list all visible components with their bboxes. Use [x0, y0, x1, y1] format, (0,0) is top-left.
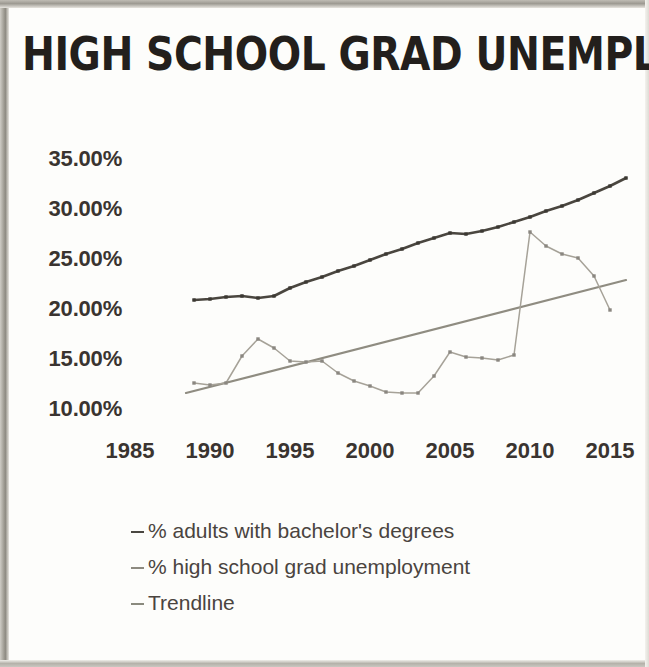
data-point-marker [496, 225, 499, 228]
data-point-marker [368, 384, 371, 387]
data-point-marker [352, 379, 355, 382]
chart-legend: % adults with bachelor's degrees% high s… [130, 513, 470, 621]
data-point-marker [272, 346, 275, 349]
data-point-marker [336, 371, 339, 374]
y-axis-tick-35: 35.00% [12, 146, 122, 172]
data-point-marker [464, 232, 467, 235]
data-point-marker [384, 252, 387, 255]
x-axis-tick-1990: 1990 [170, 438, 250, 464]
data-point-marker [288, 359, 291, 362]
series--adults-with-bachelor-s-degrees [192, 176, 627, 301]
data-point-marker [608, 184, 611, 187]
data-point-marker [208, 383, 211, 386]
x-axis-tick-2010: 2010 [490, 438, 570, 464]
data-point-marker [224, 381, 227, 384]
legend-item-label: Trendline [148, 591, 235, 615]
data-point-marker [336, 269, 339, 272]
y-axis-tick-10: 10.00% [12, 396, 122, 422]
dash-marker [130, 596, 146, 610]
chart-page: HIGH SCHOOL GRAD UNEMPLOYMENT 35.00%30.0… [0, 0, 649, 667]
x-axis-tick-2005: 2005 [410, 438, 490, 464]
data-point-marker [544, 209, 547, 212]
dash-marker [130, 560, 146, 574]
data-point-marker [448, 231, 451, 234]
y-axis-tick-30: 30.00% [12, 196, 122, 222]
x-axis-tick-1985: 1985 [90, 438, 170, 464]
y-axis-tick-25: 25.00% [12, 246, 122, 272]
y-axis-tick-15: 15.00% [12, 346, 122, 372]
data-point-marker [432, 374, 435, 377]
data-point-marker [528, 230, 531, 233]
data-point-marker [288, 286, 291, 289]
series--high-school-grad-unemployment [192, 230, 611, 394]
data-point-marker [304, 280, 307, 283]
data-point-marker [560, 252, 563, 255]
data-point-marker [320, 359, 323, 362]
data-point-marker [432, 236, 435, 239]
data-point-marker [608, 308, 611, 311]
data-point-marker [320, 275, 323, 278]
data-point-marker [416, 241, 419, 244]
data-point-marker [416, 391, 419, 394]
x-axis-tick-2000: 2000 [330, 438, 410, 464]
x-axis-tick-1995: 1995 [250, 438, 330, 464]
legend-item-1[interactable]: % high school grad unemployment [130, 549, 470, 585]
data-point-marker [512, 353, 515, 356]
legend-item-0[interactable]: % adults with bachelor's degrees [130, 513, 470, 549]
dash-marker [130, 524, 146, 538]
legend-item-2[interactable]: Trendline [130, 585, 470, 621]
data-point-marker [192, 298, 195, 301]
data-point-marker [240, 354, 243, 357]
data-point-marker [368, 258, 371, 261]
data-point-marker [480, 356, 483, 359]
legend-item-label: % adults with bachelor's degrees [148, 519, 454, 543]
data-point-marker [592, 191, 595, 194]
data-point-marker [240, 294, 243, 297]
data-point-marker [576, 198, 579, 201]
data-point-marker [208, 297, 211, 300]
data-point-marker [400, 391, 403, 394]
data-point-marker [464, 355, 467, 358]
data-point-marker [576, 256, 579, 259]
y-axis-tick-20: 20.00% [12, 296, 122, 322]
data-point-marker [528, 215, 531, 218]
data-point-marker [512, 220, 515, 223]
data-point-marker [480, 229, 483, 232]
data-point-marker [400, 247, 403, 250]
data-point-marker [448, 350, 451, 353]
data-point-marker [560, 204, 563, 207]
x-axis-tick-2015: 2015 [570, 438, 649, 464]
legend-item-label: % high school grad unemployment [148, 555, 470, 579]
data-point-marker [272, 294, 275, 297]
data-point-marker [192, 381, 195, 384]
data-point-marker [352, 264, 355, 267]
data-point-marker [592, 274, 595, 277]
data-point-marker [224, 295, 227, 298]
data-point-marker [384, 390, 387, 393]
data-point-marker [256, 337, 259, 340]
data-point-marker [256, 296, 259, 299]
data-point-marker [624, 176, 627, 179]
data-point-marker [544, 244, 547, 247]
data-point-marker [304, 360, 307, 363]
data-point-marker [496, 358, 499, 361]
